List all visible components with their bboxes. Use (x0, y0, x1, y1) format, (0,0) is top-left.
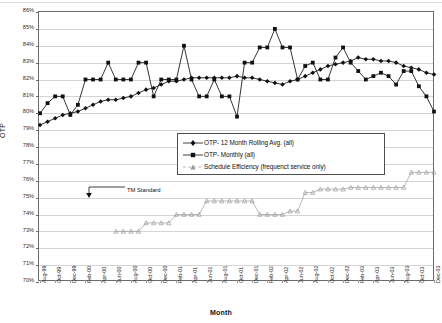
series-group (38, 27, 436, 119)
y-tick-label: 81% (23, 93, 34, 99)
data-point-diamond (38, 123, 43, 128)
data-point-square (281, 46, 285, 50)
x-tick-label: Jun-02 (299, 267, 304, 283)
y-tick-label: 76% (23, 177, 34, 183)
data-point-diamond (113, 97, 118, 102)
x-tick-label: Feb-00 (87, 266, 92, 283)
data-point-square (379, 71, 383, 75)
y-tick-mark (36, 164, 39, 165)
legend-item: Schedule Efficiency (frequenct service o… (182, 161, 380, 173)
annotation-label: TM Standard (127, 188, 161, 194)
y-tick-label: 86% (23, 8, 34, 14)
top-border-line (0, 0, 442, 3)
y-tick-mark (36, 12, 39, 13)
x-tick-label: Feb-03 (360, 266, 365, 283)
x-tick-label: Aug-03 (405, 266, 410, 283)
y-tick-label: 71% (23, 261, 34, 267)
data-point-diamond (280, 82, 285, 87)
data-point-square (243, 61, 247, 65)
data-point-square (46, 101, 50, 105)
data-point-square (326, 78, 330, 82)
y-tick-label: 72% (23, 244, 34, 250)
data-point-diamond (53, 116, 58, 121)
data-point-diamond (106, 97, 111, 102)
x-tick-label: Feb-02 (269, 266, 274, 283)
data-point-square (341, 46, 345, 50)
data-point-diamond (326, 64, 331, 69)
data-point-diamond (76, 109, 81, 114)
data-point-diamond (394, 60, 399, 65)
x-tick-label: Aug-00 (133, 266, 138, 283)
data-point-diamond (45, 119, 50, 124)
x-tick-label: Apr-02 (284, 267, 289, 283)
y-tick-label: 80% (23, 109, 34, 115)
legend-key-square-icon (182, 150, 204, 160)
y-tick-mark (36, 29, 39, 30)
y-tick-mark (36, 215, 39, 216)
data-point-diamond (310, 70, 315, 75)
data-point-diamond (227, 76, 232, 81)
x-tick-label: Apr-01 (193, 267, 198, 283)
legend-item: OTP- Monthly (all) (182, 149, 380, 161)
legend-label: Schedule Efficiency (frequenct service o… (204, 164, 326, 170)
y-tick-mark (36, 113, 39, 114)
x-tick-label: Jun-03 (390, 267, 395, 283)
chart-legend: OTP- 12 Month Rolling Avg. (all) OTP- Mo… (177, 133, 385, 175)
x-tick-label: Dec-99 (72, 266, 77, 283)
data-point-square (212, 78, 216, 82)
y-tick-label: 79% (23, 126, 34, 132)
data-point-square (167, 78, 171, 82)
y-tick-label: 73% (23, 228, 34, 234)
x-tick-label: Apr-00 (102, 267, 107, 283)
y-tick-label: 74% (23, 211, 34, 217)
data-point-diamond (341, 60, 346, 65)
data-point-square (53, 94, 57, 98)
data-point-diamond (197, 76, 202, 81)
data-point-square (364, 78, 368, 82)
data-point-square (137, 61, 141, 65)
data-point-diamond (386, 59, 391, 64)
data-point-square (250, 61, 254, 65)
data-point-diamond (83, 106, 88, 111)
data-point-square (61, 94, 65, 98)
data-point-diamond (129, 94, 134, 99)
x-tick-label: Dec-02 (345, 266, 350, 283)
y-tick-mark (36, 198, 39, 199)
data-point-square (99, 78, 103, 82)
data-point-square (228, 94, 232, 98)
data-point-diamond (235, 74, 240, 79)
data-point-diamond (220, 76, 225, 81)
data-point-diamond (257, 77, 262, 82)
data-point-diamond (91, 103, 96, 108)
y-tick-mark (36, 147, 39, 148)
data-point-diamond (424, 70, 429, 75)
data-point-diamond (121, 96, 126, 101)
legend-key-triangle-icon (182, 162, 204, 172)
data-point-square (311, 61, 315, 65)
data-point-square (106, 61, 110, 65)
legend-item: OTP- 12 Month Rolling Avg. (all) (182, 137, 380, 149)
data-point-square (303, 64, 307, 68)
x-tick-label: Dec-01 (254, 266, 259, 283)
x-tick-label: Oct-03 (420, 267, 425, 283)
tm-standard-annotation: TM Standard (85, 186, 185, 200)
x-tick-label: Oct-99 (57, 267, 62, 283)
data-point-diamond (364, 57, 369, 62)
data-point-diamond (182, 77, 187, 82)
data-point-square (409, 69, 413, 73)
data-point-square (182, 44, 186, 48)
data-point-diamond (204, 76, 209, 81)
x-tick-label: Aug-01 (223, 266, 228, 283)
y-tick-label: 77% (23, 160, 34, 166)
y-tick-mark (36, 96, 39, 97)
series-line (40, 29, 434, 117)
x-tick-label: Jun-00 (117, 267, 122, 283)
data-point-diamond (379, 59, 384, 64)
y-tick-label: 85% (23, 25, 34, 31)
data-point-square (220, 94, 224, 98)
y-tick-mark (36, 46, 39, 47)
data-point-square (129, 78, 133, 82)
y-tick-mark (36, 63, 39, 64)
series-line (116, 172, 434, 231)
y-tick-mark (36, 181, 39, 182)
